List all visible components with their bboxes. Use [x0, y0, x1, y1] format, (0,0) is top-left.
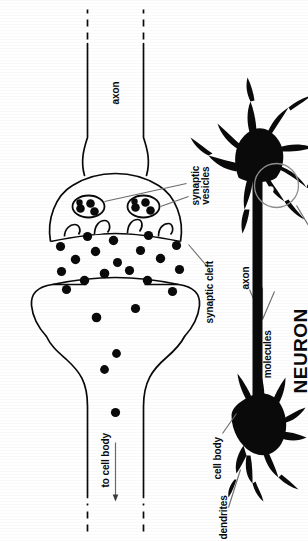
label-neurotransmitter-line1: neurotransmitter	[252, 315, 262, 393]
axon-cut-dashes-bottom	[87, 9, 143, 39]
axon-cut-dashes-top	[87, 503, 143, 531]
postsynaptic-axon-membrane	[82, 43, 148, 175]
label-neurotransmitter-line2: molecules	[262, 315, 272, 393]
neurotransmitter-dots-presynaptic	[91, 303, 139, 416]
label-vesicles-line2: vesicles	[200, 165, 210, 205]
figure-title: NEURON	[290, 308, 308, 393]
label-neurotransmitter-molecules: neurotransmitter molecules	[252, 315, 272, 393]
presynaptic-terminal-outline	[31, 277, 199, 336]
to-cell-body-arrow	[112, 442, 118, 501]
label-dendrites: dendrites	[218, 495, 229, 539]
synapse-and-neuron-illustration	[0, 0, 308, 541]
scanned-figure-page: to cell body neurotransmitter molecules …	[0, 0, 308, 541]
synaptic-vesicle-cluster-1	[72, 195, 104, 217]
label-axon-synapse: axon	[110, 81, 121, 104]
arrow-up-icon	[112, 494, 118, 501]
label-synaptic-cleft: synaptic cleft	[204, 260, 215, 323]
figure-canvas: to cell body neurotransmitter molecules …	[0, 0, 308, 541]
label-to-cell-body: to cell body	[100, 433, 111, 487]
label-axon-neuron: axon	[240, 266, 251, 289]
label-vesicles-line1: synaptic	[190, 165, 200, 205]
neurotransmitter-dots-cleft	[55, 230, 183, 295]
label-cell-body: cell body	[212, 437, 223, 479]
leader-line-synaptic-cleft	[188, 244, 205, 264]
synaptic-vesicle-cluster-2	[127, 195, 159, 217]
label-synaptic-vesicles: synaptic vesicles	[190, 165, 210, 205]
